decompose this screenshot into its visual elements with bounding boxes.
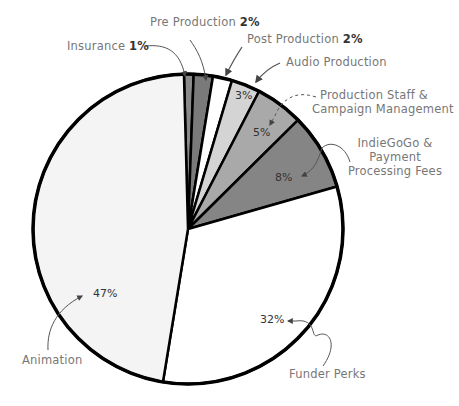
insurance-arrow-icon xyxy=(146,46,185,76)
label-animation-text: Animation xyxy=(22,353,82,367)
label-post-production-text: Post Production xyxy=(247,32,339,46)
label-indiegogo-line2: Payment xyxy=(345,150,445,164)
post-production-arrow-icon xyxy=(226,47,242,75)
label-production-staff: Production Staff & Campaign Management xyxy=(320,88,454,116)
label-post-production-pct: 2% xyxy=(343,32,363,46)
audio-arrow-icon xyxy=(256,63,280,82)
label-audio-text: Audio Production xyxy=(286,55,387,69)
label-insurance-text: Insurance xyxy=(67,39,125,53)
pct-indiegogo: 8% xyxy=(275,171,292,184)
label-insurance-pct: 1% xyxy=(129,39,149,53)
label-pre-production-text: Pre Production xyxy=(150,15,236,29)
label-staff-line1: Production Staff & xyxy=(320,88,454,102)
pct-funder-perks: 32% xyxy=(260,313,284,326)
label-staff-line2: Campaign Management xyxy=(312,102,454,116)
pct-staff: 5% xyxy=(253,126,270,139)
label-indiegogo: IndieGoGo & Payment Processing Fees xyxy=(345,136,445,178)
label-indiegogo-line3: Processing Fees xyxy=(345,164,445,178)
label-animation: Animation xyxy=(22,353,82,367)
pct-animation: 47% xyxy=(93,287,117,300)
label-pre-production-pct: 2% xyxy=(240,15,260,29)
pie-chart xyxy=(0,0,459,406)
label-funder-perks: Funder Perks xyxy=(289,367,366,381)
label-audio-production: Audio Production xyxy=(286,55,387,69)
label-pre-production: Pre Production 2% xyxy=(150,15,260,29)
pct-audio: 3% xyxy=(235,89,252,102)
label-funder-perks-text: Funder Perks xyxy=(289,367,366,381)
label-post-production: Post Production 2% xyxy=(247,32,363,46)
pie-slice-animation xyxy=(33,74,188,382)
label-insurance: Insurance 1% xyxy=(67,39,149,53)
label-indiegogo-line1: IndieGoGo & xyxy=(345,136,445,150)
